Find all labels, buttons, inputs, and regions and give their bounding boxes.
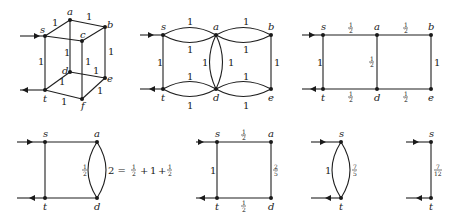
node-a: [269, 140, 273, 144]
weight-s-a-top: 1: [187, 16, 193, 27]
weight-a-d-left: 1: [202, 57, 208, 68]
label-s: s: [43, 128, 48, 139]
weight-b-e: 1: [274, 57, 280, 68]
node-t: [161, 87, 165, 91]
arrow-in-icon: [413, 139, 419, 145]
svg-text:1: 1: [83, 163, 87, 170]
node-d: [95, 196, 99, 200]
node-s: [429, 140, 433, 144]
label-s: s: [215, 128, 220, 139]
label-a: a: [268, 128, 274, 139]
label-a: a: [94, 128, 100, 139]
label-t: t: [339, 201, 344, 212]
svg-text:2 =: 2 =: [108, 165, 126, 176]
weight-s-a-bottom: 1: [187, 44, 193, 55]
svg-text:5: 5: [274, 170, 278, 177]
edge-d-e: [70, 72, 105, 78]
edge-a-d-right: [216, 35, 223, 89]
weight-b-e: 1: [434, 57, 440, 68]
edge-s-a-bottom: [163, 35, 216, 43]
label-t: t: [321, 92, 326, 103]
edge-s-a-top: [163, 28, 216, 36]
label-b: b: [428, 21, 434, 32]
svg-text:2: 2: [83, 170, 87, 177]
label-a: a: [374, 21, 380, 32]
svg-text:2: 2: [168, 170, 172, 177]
label-a: a: [213, 21, 219, 32]
panel-series-parallel-4: s t 1 75: [311, 128, 357, 212]
weight-d-e: 1: [93, 65, 99, 76]
node-t: [215, 196, 219, 200]
svg-text:2: 2: [349, 96, 353, 103]
edge-s-c: [45, 36, 82, 41]
panel-series-parallel-2: s a t d 12 2 = 12 + 1 + 12: [17, 128, 172, 212]
arrow-out-icon: [310, 86, 316, 92]
svg-text:1: 1: [150, 165, 156, 176]
node-t: [43, 196, 47, 200]
weight-c-f: 1: [85, 56, 91, 67]
svg-text:1: 1: [132, 163, 136, 170]
network-reduction-diagram: s a b c d e t f 1 1 1 1 1 1 1 1 1 1: [0, 0, 458, 220]
edge-t-d-bottom: [163, 89, 216, 97]
weight-a-d: 1: [64, 47, 70, 58]
weight-s-a: 12: [241, 128, 246, 141]
weight-a-b-top: 1: [243, 16, 249, 27]
arrow-out-icon: [325, 195, 331, 201]
weight-a-d: 12: [369, 55, 374, 68]
node-s: [161, 33, 165, 37]
node-t: [43, 88, 47, 92]
arrow-out-icon: [416, 195, 422, 201]
node-b: [269, 33, 273, 37]
node-a: [95, 140, 99, 144]
arrow-in-icon: [309, 32, 315, 38]
weight-t-d: 1: [59, 76, 65, 87]
label-d: d: [94, 201, 100, 212]
label-s: s: [321, 21, 326, 32]
weight-d-e-top: 1: [243, 71, 249, 82]
weight-t-f: 1: [61, 96, 67, 107]
label-e: e: [428, 92, 434, 103]
label-f: f: [80, 100, 87, 111]
label-d: d: [268, 201, 274, 212]
svg-text:+: +: [140, 165, 148, 176]
svg-text:7: 7: [436, 163, 440, 170]
node-a: [375, 33, 379, 37]
label-s: s: [429, 128, 434, 139]
equation: 2 = 12 + 1 + 12: [108, 163, 172, 177]
label-t: t: [161, 92, 166, 103]
weight-s-t: 1: [210, 165, 216, 176]
label-t: t: [215, 201, 220, 212]
weight-s-t-left: 1: [325, 165, 331, 176]
label-t: t: [43, 93, 48, 104]
edge-s-t-right: [341, 142, 350, 198]
label-d: d: [62, 65, 68, 76]
node-b: [429, 33, 433, 37]
edge-a-b-bottom: [216, 35, 271, 43]
weight-a-b: 1: [86, 11, 92, 22]
svg-text:2: 2: [404, 27, 408, 34]
edge-a-b-top: [216, 28, 271, 36]
label-t: t: [429, 201, 434, 212]
node-t: [339, 196, 343, 200]
weight-b-e: 1: [108, 46, 114, 57]
weight-d-e-bottom: 1: [243, 100, 249, 111]
weight-d-e: 12: [403, 90, 408, 103]
label-e: e: [107, 73, 113, 84]
node-s: [321, 33, 325, 37]
arrow-out-icon: [149, 86, 155, 92]
svg-text:2: 2: [404, 96, 408, 103]
weight-t-d-bottom: 1: [187, 100, 193, 111]
arrow-out-icon: [22, 87, 28, 93]
arrow-out-icon: [199, 195, 205, 201]
edge-d-e-top: [216, 82, 271, 90]
label-s: s: [339, 128, 344, 139]
node-d: [269, 196, 273, 200]
edge-s-t-left: [332, 142, 341, 198]
arrow-in-icon: [148, 32, 154, 38]
weight-t-d: 12: [241, 199, 246, 213]
weight-s-t: 1: [157, 57, 163, 68]
edge-d-e-bottom: [216, 89, 271, 97]
weight-s-a: 12: [348, 21, 353, 34]
svg-text:1: 1: [168, 163, 172, 170]
weight-a-d-left: 12: [82, 163, 87, 177]
